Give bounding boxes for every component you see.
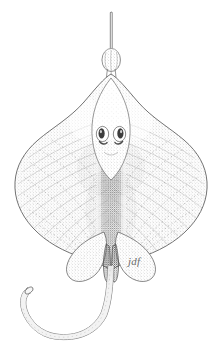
artist-signature: jdf — [128, 256, 140, 267]
ray-illustration — [0, 0, 222, 348]
illustration-plate: jdf — [0, 0, 222, 348]
